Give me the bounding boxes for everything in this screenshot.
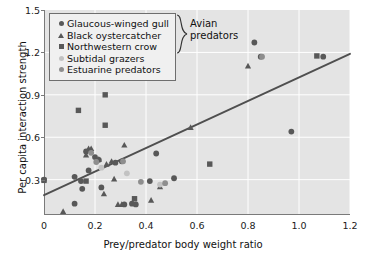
legend-item: Black oystercatcher [55,30,169,42]
legend-item-label: Estuarine predators [67,64,161,76]
legend-item: Estuarine predators [55,64,169,76]
data-point-circle [138,179,144,185]
data-point-circle [93,159,99,165]
x-axis-label: Prey/predator body weight ratio [0,239,366,250]
data-point-square [314,53,319,58]
data-point-triangle [121,142,127,148]
data-point-circle [86,168,92,174]
data-point-circle [147,178,153,184]
data-point-square [103,92,108,97]
data-point-circle [72,174,78,180]
data-point-circle [288,129,294,135]
data-point-circle [98,165,104,171]
data-point-circle [320,54,326,60]
data-point-triangle [60,208,66,214]
data-point-square [132,196,137,201]
legend-marker-circle-icon [55,56,67,61]
data-point-circle [120,158,126,164]
avian-group-label: Avian predators [190,18,238,42]
data-point-circle [153,151,159,157]
data-point-circle [79,186,85,192]
legend-item-label: Subtidal grazers [67,53,144,65]
data-point-circle [157,182,163,188]
x-tick-label: 1.2 [342,220,357,231]
y-axis-label: Per capita interaction strength [17,38,28,198]
data-point-triangle [101,191,107,197]
legend-marker-triangle-icon [55,33,67,38]
data-point-triangle [103,161,109,167]
data-point-square [207,161,212,166]
x-tick-label: 1.0 [291,220,306,231]
data-point-triangle [111,176,117,182]
data-point-circle [98,185,104,191]
data-point-square [76,108,81,113]
x-tick-label: 0.6 [189,220,204,231]
y-tick-mark [41,10,45,11]
avian-group-label-line1: Avian [190,18,238,30]
y-tick-mark [41,52,45,53]
x-tick-label: 0 [41,220,47,231]
data-point-circle [78,178,84,184]
y-tick-mark [41,95,45,96]
x-tick-label: 0.2 [87,220,102,231]
data-point-circle [72,201,78,207]
legend: Glaucous-winged gullBlack oystercatcherN… [49,13,176,81]
x-tick-label: 0.4 [138,220,153,231]
legend-marker-square-icon [55,44,67,49]
legend-item-label: Northwestern crow [67,41,157,53]
data-point-circle [88,150,94,156]
legend-item: Subtidal grazers [55,53,169,65]
legend-item: Northwestern crow [55,41,169,53]
data-point-circle [124,170,130,176]
legend-marker-circle-icon [55,21,67,26]
data-point-circle [259,54,265,60]
figure: 00.20.40.60.81.01.2 0.30.60.91.21.5 Prey… [0,0,366,259]
data-point-square [83,178,88,183]
legend-item: Glaucous-winged gull [55,18,169,30]
legend-item-label: Glaucous-winged gull [67,18,169,30]
avian-group-brace [175,14,189,54]
x-tick-label: 0.8 [240,220,255,231]
y-tick-mark [41,137,45,138]
data-point-triangle [148,197,154,203]
legend-item-label: Black oystercatcher [67,30,161,42]
data-point-square [103,123,108,128]
data-point-triangle [245,63,251,69]
y-tick-label: 1.5 [14,5,40,16]
avian-group-label-line2: predators [190,30,238,42]
data-point-circle [251,40,257,46]
data-point-circle [171,175,177,181]
legend-marker-circle-icon [55,67,67,72]
y-tick-mark [41,180,45,181]
data-point-circle [133,201,139,207]
data-point-circle [162,180,168,186]
